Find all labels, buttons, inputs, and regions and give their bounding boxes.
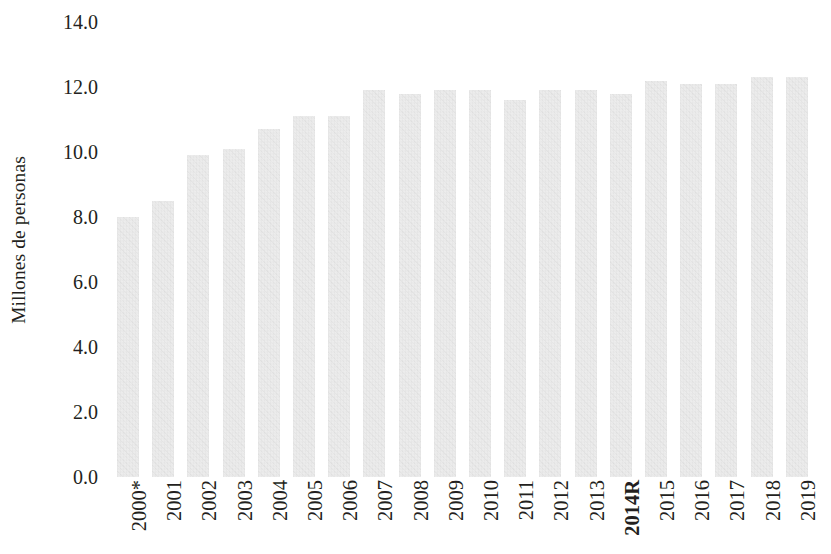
- bar-chart: Millones de personas 14.012.010.08.06.04…: [0, 0, 831, 554]
- y-axis-tick-label: 0.0: [73, 467, 98, 487]
- bar: [434, 90, 456, 477]
- y-axis-title: Millones de personas: [0, 0, 38, 480]
- bar: [293, 116, 315, 477]
- x-axis-tick: 2006: [328, 478, 350, 554]
- x-axis-tick: 2014R: [610, 478, 632, 554]
- x-axis-tick-label: 2015: [656, 480, 678, 521]
- plot-area: [110, 0, 831, 478]
- x-axis-tick-label: 2003: [234, 480, 256, 521]
- x-axis-tick-label: 2013: [586, 480, 608, 521]
- x-axis-tick: 2003: [223, 478, 245, 554]
- y-axis-tick-label: 4.0: [73, 337, 98, 357]
- x-axis-tick-label: 2010: [480, 480, 502, 521]
- bar: [539, 90, 561, 477]
- x-axis-tick-label: 2004: [269, 480, 291, 521]
- x-axis-tick-labels: 2000*20012002200320042005200620072008200…: [110, 478, 831, 554]
- y-axis-tick-label: 6.0: [73, 272, 98, 292]
- x-axis-tick-label: 2018: [762, 480, 784, 521]
- x-axis-tick-label: 2001: [163, 480, 185, 521]
- x-axis-tick: 2001: [152, 478, 174, 554]
- x-axis-tick-label: 2000*: [128, 480, 150, 531]
- x-axis-tick-label: 2014R: [621, 480, 643, 536]
- x-axis-tick: 2009: [434, 478, 456, 554]
- bar: [751, 77, 773, 477]
- x-axis-tick: 2000*: [117, 478, 139, 554]
- y-axis-tick-label: 2.0: [73, 402, 98, 422]
- bar: [328, 116, 350, 477]
- x-axis-tick-label: 2005: [304, 480, 326, 521]
- x-axis-tick-label: 2008: [410, 480, 432, 521]
- x-axis-tick-label: 2007: [374, 480, 396, 521]
- bar: [575, 90, 597, 477]
- y-axis-tick-label: 14.0: [63, 12, 98, 32]
- bar: [504, 100, 526, 477]
- y-axis-tick-label: 10.0: [63, 142, 98, 162]
- bar: [187, 155, 209, 477]
- bar: [715, 84, 737, 477]
- y-axis-tick-label: 8.0: [73, 207, 98, 227]
- x-axis-tick: 2015: [645, 478, 667, 554]
- bar: [645, 81, 667, 478]
- x-axis-tick-label: 2002: [198, 480, 220, 521]
- bar: [152, 201, 174, 477]
- x-axis-tick-label: 2016: [691, 480, 713, 521]
- bar: [680, 84, 702, 477]
- x-axis-tick: 2011: [504, 478, 526, 554]
- bar: [258, 129, 280, 477]
- x-axis-tick: 2005: [293, 478, 315, 554]
- x-axis-tick: 2019: [786, 478, 808, 554]
- x-axis-tick: 2004: [258, 478, 280, 554]
- bar: [363, 90, 385, 477]
- x-axis-tick-label: 2019: [797, 480, 819, 521]
- y-axis-tick-labels: 14.012.010.08.06.04.02.00.0: [38, 0, 106, 554]
- bar: [223, 149, 245, 477]
- bar: [399, 94, 421, 478]
- bars-layer: [110, 0, 831, 478]
- y-axis-title-label: Millones de personas: [8, 156, 30, 324]
- x-axis-tick-label: 2009: [445, 480, 467, 521]
- bar: [117, 217, 139, 477]
- x-axis-tick: 2012: [539, 478, 561, 554]
- bar: [469, 90, 491, 477]
- bar: [786, 77, 808, 477]
- x-axis-tick: 2013: [575, 478, 597, 554]
- x-axis-tick: 2016: [680, 478, 702, 554]
- x-axis-tick: 2018: [751, 478, 773, 554]
- x-axis-tick-label: 2012: [550, 480, 572, 521]
- x-axis-tick-label: 2017: [726, 480, 748, 521]
- y-axis-tick-label: 12.0: [63, 77, 98, 97]
- x-axis-tick: 2017: [715, 478, 737, 554]
- x-axis-tick-label: 2006: [339, 480, 361, 521]
- x-axis-tick: 2010: [469, 478, 491, 554]
- x-axis-tick: 2002: [187, 478, 209, 554]
- x-axis-tick-label: 2011: [515, 480, 537, 520]
- x-axis-tick: 2007: [363, 478, 385, 554]
- x-axis-tick: 2008: [399, 478, 421, 554]
- bar: [610, 94, 632, 478]
